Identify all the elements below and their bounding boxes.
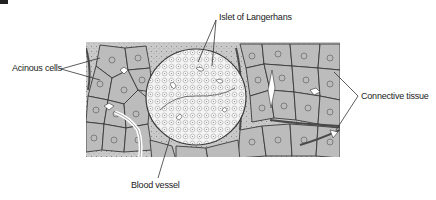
label-blood-vessel: Blood vessel [131, 180, 180, 190]
islet-of-langerhans [146, 49, 246, 145]
label-connective-tissue: Connective tissue [361, 91, 429, 101]
label-islet-of-langerhans: Islet of Langerhans [219, 12, 292, 22]
tissue-block [86, 42, 340, 160]
label-acinous-cells: Acinous cells [12, 63, 62, 73]
